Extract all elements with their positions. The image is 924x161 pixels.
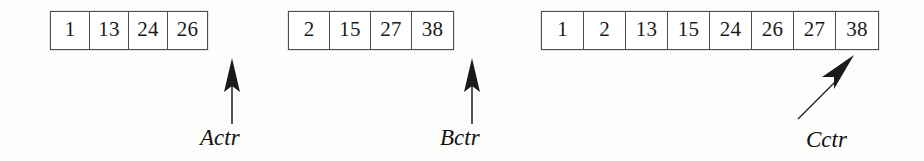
up-arrow-icon [454, 58, 490, 124]
array-a: 1 13 24 26 [50, 11, 208, 50]
array-b-cell: 38 [412, 12, 453, 49]
array-c-cell: 15 [668, 12, 710, 49]
array-c-cell: 1 [542, 12, 584, 49]
pointer-b-label: Bctr [440, 126, 480, 149]
up-arrow-icon [214, 58, 250, 124]
array-c-cell: 24 [710, 12, 752, 49]
array-c-cell: 38 [836, 12, 878, 49]
array-a-cell: 24 [129, 12, 168, 49]
pointer-c-label: Cctr [806, 128, 847, 151]
array-c: 1 2 13 15 24 26 27 38 [541, 11, 879, 50]
array-c-cell: 13 [626, 12, 668, 49]
array-b-cell: 27 [371, 12, 412, 49]
up-right-arrow-icon [790, 55, 860, 121]
array-a-cell: 26 [168, 12, 207, 49]
array-a-cell: 13 [90, 12, 129, 49]
array-a-cell: 1 [51, 12, 90, 49]
array-c-cell: 2 [584, 12, 626, 49]
array-c-cell: 27 [794, 12, 836, 49]
array-b: 2 15 27 38 [288, 11, 454, 50]
array-b-cell: 15 [330, 12, 371, 49]
array-c-cell: 26 [752, 12, 794, 49]
merge-arrays-figure: 1 13 24 26 2 15 27 38 1 2 13 15 24 26 27… [0, 0, 924, 161]
pointer-a-label: Actr [200, 126, 240, 149]
array-b-cell: 2 [289, 12, 330, 49]
